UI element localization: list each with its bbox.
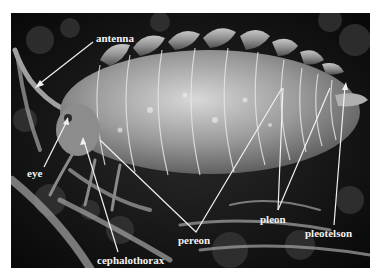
label-pleotelson: pleotelson bbox=[305, 227, 352, 239]
label-antenna: antenna bbox=[96, 32, 134, 44]
label-eye: eye bbox=[27, 167, 42, 179]
label-cephalothorax: cephalothorax bbox=[97, 254, 165, 266]
label-pleon: pleon bbox=[260, 213, 286, 225]
isopod-anatomy-figure: antenna eye cephalothorax pereon pleon p… bbox=[0, 0, 381, 278]
label-pereon: pereon bbox=[178, 234, 210, 246]
